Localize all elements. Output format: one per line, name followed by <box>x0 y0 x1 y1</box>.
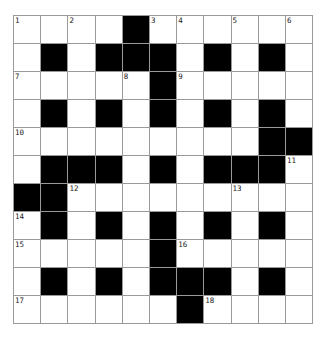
clue-number: 4 <box>178 16 183 25</box>
letter-cell[interactable] <box>203 239 230 267</box>
letter-cell[interactable] <box>122 183 149 211</box>
letter-cell[interactable]: 7 <box>13 71 40 99</box>
block-cell <box>95 155 122 183</box>
clue-number: 15 <box>15 240 24 249</box>
letter-cell[interactable] <box>122 127 149 155</box>
letter-cell[interactable] <box>231 71 258 99</box>
letter-cell[interactable] <box>231 43 258 71</box>
letter-cell[interactable] <box>231 267 258 295</box>
letter-cell[interactable] <box>285 71 312 99</box>
letter-cell[interactable]: 18 <box>203 295 230 323</box>
letter-cell[interactable] <box>67 127 94 155</box>
letter-cell[interactable] <box>285 43 312 71</box>
letter-cell[interactable]: 10 <box>13 127 40 155</box>
letter-cell[interactable] <box>176 99 203 127</box>
letter-cell[interactable] <box>95 71 122 99</box>
letter-cell[interactable] <box>258 295 285 323</box>
letter-cell[interactable] <box>67 99 94 127</box>
letter-cell[interactable] <box>122 239 149 267</box>
letter-cell[interactable] <box>176 211 203 239</box>
letter-cell[interactable] <box>231 99 258 127</box>
letter-cell[interactable] <box>258 71 285 99</box>
letter-cell[interactable]: 16 <box>176 239 203 267</box>
letter-cell[interactable] <box>231 295 258 323</box>
letter-cell[interactable] <box>40 15 67 43</box>
letter-cell[interactable]: 1 <box>13 15 40 43</box>
letter-cell[interactable] <box>122 99 149 127</box>
letter-cell[interactable] <box>285 99 312 127</box>
block-cell <box>40 211 67 239</box>
letter-cell[interactable] <box>285 267 312 295</box>
letter-cell[interactable]: 17 <box>13 295 40 323</box>
letter-cell[interactable] <box>176 183 203 211</box>
letter-cell[interactable] <box>285 239 312 267</box>
letter-cell[interactable] <box>176 43 203 71</box>
letter-cell[interactable] <box>258 239 285 267</box>
letter-cell[interactable] <box>285 295 312 323</box>
letter-cell[interactable] <box>122 155 149 183</box>
letter-cell[interactable] <box>231 127 258 155</box>
letter-cell[interactable] <box>231 239 258 267</box>
letter-cell[interactable] <box>203 127 230 155</box>
letter-cell[interactable]: 5 <box>231 15 258 43</box>
letter-cell[interactable] <box>67 295 94 323</box>
letter-cell[interactable] <box>40 127 67 155</box>
letter-cell[interactable] <box>13 267 40 295</box>
crossword-grid: 123456789101112131415161718 <box>13 15 313 324</box>
letter-cell[interactable]: 6 <box>285 15 312 43</box>
letter-cell[interactable] <box>40 239 67 267</box>
letter-cell[interactable]: 2 <box>67 15 94 43</box>
letter-cell[interactable] <box>258 15 285 43</box>
letter-cell[interactable]: 12 <box>67 183 94 211</box>
letter-cell[interactable] <box>95 127 122 155</box>
letter-cell[interactable] <box>67 43 94 71</box>
clue-number: 1 <box>15 16 20 25</box>
letter-cell[interactable] <box>122 295 149 323</box>
block-cell <box>258 99 285 127</box>
block-cell <box>149 71 176 99</box>
letter-cell[interactable] <box>203 15 230 43</box>
letter-cell[interactable]: 8 <box>122 71 149 99</box>
letter-cell[interactable] <box>13 155 40 183</box>
block-cell <box>203 267 230 295</box>
letter-cell[interactable] <box>67 71 94 99</box>
clue-number: 7 <box>15 72 20 81</box>
clue-number: 16 <box>178 240 187 249</box>
letter-cell[interactable]: 3 <box>149 15 176 43</box>
letter-cell[interactable] <box>203 71 230 99</box>
letter-cell[interactable] <box>13 43 40 71</box>
letter-cell[interactable] <box>67 239 94 267</box>
letter-cell[interactable] <box>285 183 312 211</box>
letter-cell[interactable] <box>149 295 176 323</box>
block-cell <box>95 267 122 295</box>
letter-cell[interactable] <box>40 295 67 323</box>
letter-cell[interactable] <box>258 183 285 211</box>
letter-cell[interactable] <box>40 71 67 99</box>
block-cell <box>285 127 312 155</box>
letter-cell[interactable]: 14 <box>13 211 40 239</box>
letter-cell[interactable]: 11 <box>285 155 312 183</box>
letter-cell[interactable] <box>149 183 176 211</box>
letter-cell[interactable] <box>67 267 94 295</box>
letter-cell[interactable]: 15 <box>13 239 40 267</box>
clue-number: 14 <box>15 212 24 221</box>
letter-cell[interactable] <box>95 295 122 323</box>
letter-cell[interactable] <box>176 127 203 155</box>
letter-cell[interactable] <box>149 127 176 155</box>
letter-cell[interactable] <box>176 155 203 183</box>
clue-number: 11 <box>287 156 296 165</box>
letter-cell[interactable] <box>95 239 122 267</box>
letter-cell[interactable] <box>67 211 94 239</box>
letter-cell[interactable] <box>95 15 122 43</box>
letter-cell[interactable]: 9 <box>176 71 203 99</box>
letter-cell[interactable]: 4 <box>176 15 203 43</box>
letter-cell[interactable] <box>95 183 122 211</box>
letter-cell[interactable] <box>13 99 40 127</box>
letter-cell[interactable] <box>203 183 230 211</box>
letter-cell[interactable]: 13 <box>231 183 258 211</box>
letter-cell[interactable] <box>231 211 258 239</box>
letter-cell[interactable] <box>122 211 149 239</box>
block-cell <box>67 155 94 183</box>
letter-cell[interactable] <box>122 267 149 295</box>
letter-cell[interactable] <box>285 211 312 239</box>
